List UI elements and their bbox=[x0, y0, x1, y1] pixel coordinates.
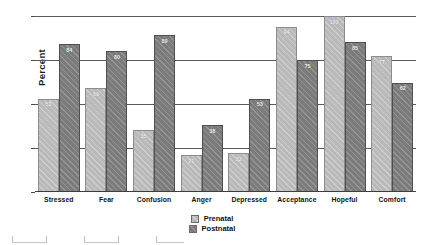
bar-value-label: 75 bbox=[298, 63, 317, 69]
bar-acceptance-prenatal: 94 bbox=[276, 27, 297, 192]
category-label-acceptance: Acceptance bbox=[273, 196, 321, 208]
bar-value-label: 77 bbox=[372, 59, 391, 65]
bar-stressed-prenatal: 53 bbox=[38, 99, 59, 192]
bar-value-label: 59 bbox=[86, 91, 105, 97]
bar-depressed-prenatal: 22 bbox=[228, 153, 249, 192]
scan-artifact-line bbox=[156, 242, 184, 243]
bar-confusion-prenatal: 35 bbox=[133, 130, 154, 192]
legend-label-postnatal: Postnatal bbox=[202, 224, 236, 233]
bar-anger-postnatal: 38 bbox=[202, 125, 223, 192]
bar-group-fear: 5980 bbox=[83, 16, 131, 192]
bar-group-stressed: 5384 bbox=[35, 16, 83, 192]
category-label-stressed: Stressed bbox=[35, 196, 83, 208]
bar-fear-postnatal: 80 bbox=[106, 51, 127, 192]
y-tick-mark-0 bbox=[31, 192, 35, 193]
category-labels: StressedFearConfusionAngerDepressedAccep… bbox=[35, 196, 416, 208]
scan-artifact-tick bbox=[118, 236, 119, 243]
legend-item-prenatal: Prenatal bbox=[191, 214, 234, 223]
scan-artifact-line bbox=[12, 242, 46, 243]
bar-value-label: 53 bbox=[250, 101, 269, 107]
x-axis-line bbox=[35, 191, 416, 192]
bar-depressed-postnatal: 53 bbox=[249, 99, 270, 192]
category-label-depressed: Depressed bbox=[226, 196, 274, 208]
bar-hopeful-postnatal: 85 bbox=[345, 42, 366, 192]
scan-artifact-line bbox=[84, 242, 118, 243]
bar-group-hopeful: 10085 bbox=[321, 16, 369, 192]
bar-group-depressed: 2253 bbox=[226, 16, 274, 192]
bar-value-label: 100 bbox=[325, 19, 344, 25]
chart-legend: Prenatal Postnatal bbox=[0, 214, 424, 233]
scan-artifact-tick bbox=[46, 236, 47, 243]
bar-stressed-postnatal: 84 bbox=[59, 44, 80, 192]
category-label-comfort: Comfort bbox=[368, 196, 416, 208]
bar-fear-prenatal: 59 bbox=[85, 88, 106, 192]
bar-comfort-prenatal: 77 bbox=[371, 56, 392, 192]
bar-value-label: 38 bbox=[203, 128, 222, 134]
bar-value-label: 85 bbox=[346, 45, 365, 51]
bar-value-label: 80 bbox=[107, 54, 126, 60]
bar-value-label: 53 bbox=[39, 101, 58, 107]
page-edge-artifact bbox=[6, 235, 186, 243]
bar-acceptance-postnatal: 75 bbox=[297, 60, 318, 192]
bar-value-label: 22 bbox=[229, 156, 248, 162]
category-label-confusion: Confusion bbox=[130, 196, 178, 208]
bar-anger-prenatal: 21 bbox=[181, 155, 202, 192]
legend-label-prenatal: Prenatal bbox=[204, 214, 234, 223]
bar-groups: 538459803589213822539475100857762 bbox=[35, 16, 416, 192]
bar-comfort-postnatal: 62 bbox=[392, 83, 413, 192]
bar-hopeful-prenatal: 100 bbox=[324, 16, 345, 192]
bar-value-label: 21 bbox=[182, 158, 201, 164]
postnatal-swatch-icon bbox=[189, 225, 197, 233]
bar-group-confusion: 3589 bbox=[130, 16, 178, 192]
bar-value-label: 62 bbox=[393, 85, 412, 91]
bar-chart: Percent 0255075100 538459803589213822539… bbox=[0, 0, 424, 245]
plot-area: 0255075100 53845980358921382253947510085… bbox=[35, 16, 416, 192]
prenatal-swatch-icon bbox=[191, 215, 199, 223]
bar-group-acceptance: 9475 bbox=[273, 16, 321, 192]
category-label-anger: Anger bbox=[178, 196, 226, 208]
bar-value-label: 84 bbox=[60, 47, 79, 53]
category-label-hopeful: Hopeful bbox=[321, 196, 369, 208]
legend-item-postnatal: Postnatal bbox=[189, 224, 236, 233]
bar-value-label: 94 bbox=[277, 29, 296, 35]
bar-group-comfort: 7762 bbox=[368, 16, 416, 192]
bar-group-anger: 2138 bbox=[178, 16, 226, 192]
bar-value-label: 89 bbox=[155, 38, 174, 44]
category-label-fear: Fear bbox=[83, 196, 131, 208]
bar-value-label: 35 bbox=[134, 133, 153, 139]
bar-confusion-postnatal: 89 bbox=[154, 35, 175, 192]
